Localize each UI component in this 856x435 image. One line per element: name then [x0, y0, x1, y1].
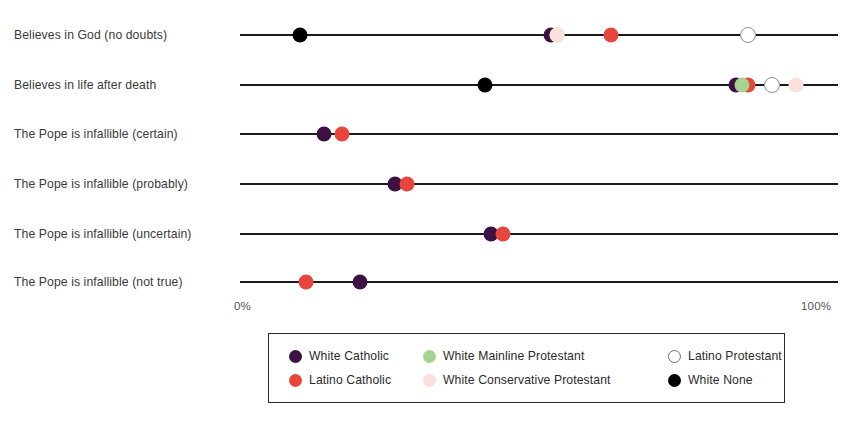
data-point-dot: [292, 28, 307, 43]
row-category-label: The Pope is infallible (uncertain): [14, 227, 232, 241]
legend-item[interactable]: White Mainline Protestant: [423, 349, 668, 363]
plot-area: Believes in God (no doubts)Believes in l…: [0, 0, 856, 300]
chart-row: The Pope is infallible (not true): [0, 262, 856, 302]
data-point-dot: [740, 27, 756, 43]
data-point-dot: [764, 77, 780, 93]
row-category-label: The Pope is infallible (certain): [14, 127, 232, 141]
axis-tick-label-max: 100%: [801, 300, 831, 312]
legend-item-label: Latino Catholic: [309, 373, 391, 387]
data-point-dot: [298, 275, 313, 290]
legend-swatch-icon: [423, 350, 436, 363]
legend-item-label: White Catholic: [309, 349, 389, 363]
legend-item[interactable]: Latino Protestant: [668, 349, 784, 363]
legend-item-label: White Conservative Protestant: [443, 373, 611, 387]
chart-row: Believes in God (no doubts): [0, 15, 856, 55]
legend-swatch-icon: [668, 374, 681, 387]
row-category-label: The Pope is infallible (not true): [14, 275, 232, 289]
chart-row: The Pope is infallible (probably): [0, 164, 856, 204]
data-point-dot: [352, 275, 367, 290]
data-point-dot: [735, 78, 750, 93]
legend-swatch-icon: [423, 374, 436, 387]
row-category-label: The Pope is infallible (probably): [14, 177, 232, 191]
data-point-dot: [478, 78, 493, 93]
data-point-dot: [603, 28, 618, 43]
data-point-dot: [334, 127, 349, 142]
legend-item[interactable]: White None: [668, 373, 784, 387]
legend-item[interactable]: Latino Catholic: [289, 373, 423, 387]
legend-item-label: White Mainline Protestant: [443, 349, 584, 363]
legend-item-label: White None: [688, 373, 753, 387]
dot-plot-chart: Believes in God (no doubts)Believes in l…: [0, 0, 856, 435]
row-category-label: Believes in life after death: [14, 78, 232, 92]
row-axis-line: [240, 281, 838, 283]
data-point-dot: [549, 28, 564, 43]
legend-item[interactable]: White Catholic: [289, 349, 423, 363]
legend-swatch-icon: [668, 350, 681, 363]
legend-item-label: Latino Protestant: [688, 349, 782, 363]
chart-row: The Pope is infallible (uncertain): [0, 214, 856, 254]
row-axis-line: [240, 233, 838, 235]
chart-row: The Pope is infallible (certain): [0, 114, 856, 154]
data-point-dot: [789, 78, 804, 93]
legend-swatch-icon: [289, 350, 302, 363]
row-axis-line: [240, 183, 838, 185]
chart-legend: White CatholicWhite Mainline ProtestantL…: [268, 333, 785, 403]
axis-tick-label-min: 0%: [234, 300, 251, 312]
data-point-dot: [316, 127, 331, 142]
data-point-dot: [400, 177, 415, 192]
chart-row: Believes in life after death: [0, 65, 856, 105]
legend-item[interactable]: White Conservative Protestant: [423, 373, 668, 387]
row-category-label: Believes in God (no doubts): [14, 28, 232, 42]
legend-swatch-icon: [289, 374, 302, 387]
legend-grid: White CatholicWhite Mainline ProtestantL…: [269, 344, 784, 392]
data-point-dot: [496, 227, 511, 242]
